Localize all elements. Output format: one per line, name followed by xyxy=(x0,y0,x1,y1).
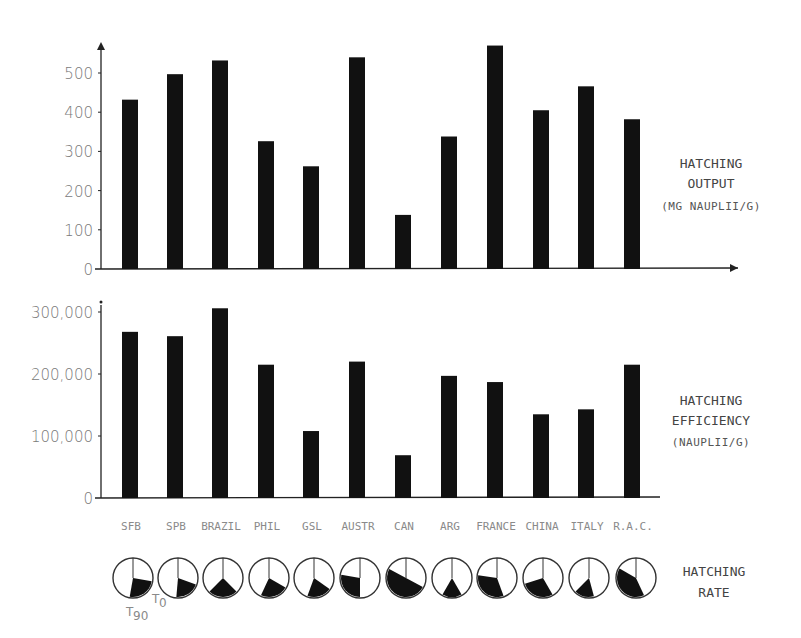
bar-gsl xyxy=(303,166,319,269)
category-label: BRAZIL xyxy=(201,520,241,533)
category-label: CHINA xyxy=(525,520,558,533)
rate-pie-italy xyxy=(569,558,609,598)
bar-sfb xyxy=(122,100,138,269)
x-axis-arrow-icon xyxy=(730,264,738,272)
bar-gsl xyxy=(303,431,319,498)
rate-pie-sfb xyxy=(113,558,153,598)
rate-pie-spb xyxy=(158,558,198,598)
y-tick-label: 300 xyxy=(64,143,93,161)
y-tick-label: 100,000 xyxy=(31,428,93,446)
rate-pie-brazil xyxy=(203,558,243,598)
bar-france xyxy=(487,46,503,269)
output-title-units: (MG NAUPLII/G) xyxy=(661,200,761,213)
y-tick-label: 100 xyxy=(64,222,93,240)
bar-brazil xyxy=(212,60,228,269)
category-label: ITALY xyxy=(570,520,603,533)
category-label: AUSTR xyxy=(341,520,374,533)
output-title-line1: HATCHING xyxy=(680,156,743,171)
category-label: SPB xyxy=(166,520,186,533)
category-label: FRANCE xyxy=(476,520,516,533)
y-tick-label: 0 xyxy=(83,261,93,279)
efficiency-title-line1: HATCHING xyxy=(680,393,743,408)
output-axis-title: HATCHING OUTPUT (MG NAUPLII/G) xyxy=(661,156,761,213)
bar-italy xyxy=(578,86,594,269)
hatching-output-chart: 0100200300400500 xyxy=(64,42,738,279)
bar-phil xyxy=(258,141,274,269)
bar-austr xyxy=(349,362,365,498)
category-label: PHIL xyxy=(254,520,281,533)
category-label: R.A.C. xyxy=(613,520,653,533)
y-tick-label: 500 xyxy=(64,65,93,83)
filled-sector xyxy=(130,578,152,597)
bar-china xyxy=(533,110,549,269)
rate-title-line2: RATE xyxy=(698,585,729,600)
rate-pie-france xyxy=(477,558,517,598)
efficiency-axis-title: HATCHING EFFICIENCY (NAUPLII/G) xyxy=(672,393,750,449)
y-tick-label: 200,000 xyxy=(31,366,93,384)
rate-title-line1: HATCHING xyxy=(683,564,746,579)
bar-arg xyxy=(441,137,457,269)
hatching-efficiency-chart: 0100,000200,000300,000 xyxy=(31,301,660,509)
hatching-rate-pies xyxy=(113,558,656,598)
bar-spb xyxy=(167,336,183,498)
output-title-line2: OUTPUT xyxy=(688,176,735,191)
rate-pie-china xyxy=(523,558,563,598)
filled-sector xyxy=(341,575,360,597)
bar-austr xyxy=(349,57,365,269)
category-label: ARG xyxy=(440,520,460,533)
svg-text:0: 0 xyxy=(159,596,167,610)
rate-axis-title: HATCHING RATE xyxy=(683,564,746,600)
category-labels: SFBSPBBRAZILPHILGSLAUSTRCANARGFRANCECHIN… xyxy=(121,520,653,533)
y-tick-label: 200 xyxy=(64,183,93,201)
hatching-figure: 0100200300400500 0100,000200,000300,000 … xyxy=(0,0,801,638)
y-tick-label: 0 xyxy=(83,490,93,508)
rate-pie-can xyxy=(386,558,426,598)
bar-brazil xyxy=(212,308,228,498)
rate-pie-rac xyxy=(616,558,656,598)
y-axis-arrow-icon xyxy=(97,42,105,50)
y-tick-label: 300,000 xyxy=(31,304,93,322)
t0-annotation: T 0 xyxy=(151,592,167,610)
bar-italy xyxy=(578,409,594,498)
bar-can xyxy=(395,455,411,498)
bar-spb xyxy=(167,74,183,269)
efficiency-title-units: (NAUPLII/G) xyxy=(672,436,750,449)
x-axis xyxy=(95,268,738,269)
bar-arg xyxy=(441,376,457,498)
t90-annotation: T 90 xyxy=(125,605,148,623)
bar-phil xyxy=(258,365,274,498)
bar-sfb xyxy=(122,332,138,498)
svg-text:90: 90 xyxy=(133,609,148,623)
rate-pie-austr xyxy=(340,558,380,598)
category-label: CAN xyxy=(394,520,414,533)
rate-pie-arg xyxy=(432,558,472,598)
category-label: SFB xyxy=(121,520,141,533)
category-label: GSL xyxy=(302,520,322,533)
rate-pie-gsl xyxy=(294,558,334,598)
bar-rac xyxy=(624,365,640,498)
bar-france xyxy=(487,382,503,498)
efficiency-title-line2: EFFICIENCY xyxy=(672,413,750,428)
rate-pie-phil xyxy=(249,558,289,598)
bar-can xyxy=(395,215,411,269)
y-tick-label: 400 xyxy=(64,104,93,122)
bar-rac xyxy=(624,119,640,269)
bar-china xyxy=(533,414,549,498)
